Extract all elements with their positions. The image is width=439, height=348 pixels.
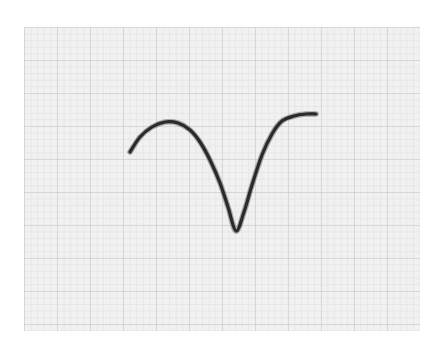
scanned-chart-page: line (0, 0, 439, 348)
trace-line (130, 114, 316, 231)
trace-line-shadow (130, 114, 316, 231)
trace-curve (0, 0, 439, 348)
